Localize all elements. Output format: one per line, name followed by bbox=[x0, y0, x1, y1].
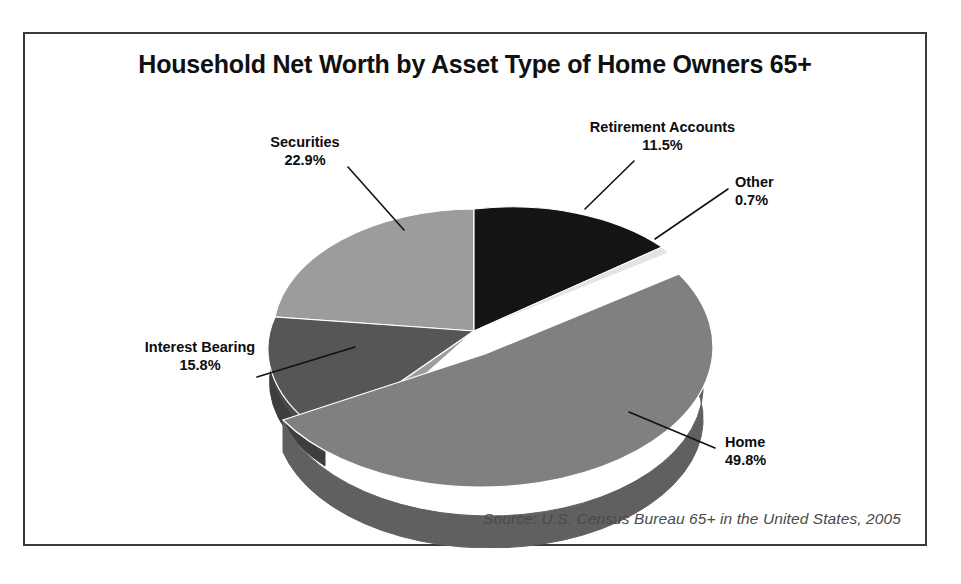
callout-interest-bearing-value: 15.8% bbox=[105, 357, 295, 375]
pie-chart-graphic bbox=[25, 34, 929, 548]
callout-retirement-accounts-name: Retirement Accounts bbox=[590, 119, 735, 135]
callout-home-name: Home bbox=[725, 434, 765, 450]
callout-home-value: 49.8% bbox=[725, 452, 825, 470]
callout-retirement-accounts-value: 11.5% bbox=[555, 137, 770, 155]
source-note: Source: U.S. Census Bureau 65+ in the Un… bbox=[483, 510, 901, 528]
leader-line-other bbox=[655, 189, 728, 239]
callout-securities-name: Securities bbox=[270, 134, 339, 150]
callout-home: Home 49.8% bbox=[725, 434, 825, 469]
callout-other-name: Other bbox=[735, 174, 774, 190]
callout-securities-value: 22.9% bbox=[230, 152, 380, 170]
chart-frame: Household Net Worth by Asset Type of Hom… bbox=[23, 32, 927, 546]
leader-line-retirement bbox=[585, 161, 634, 209]
pie-slice-securities bbox=[275, 209, 474, 331]
callout-other-value: 0.7% bbox=[735, 192, 835, 210]
callout-securities: Securities 22.9% bbox=[230, 134, 380, 169]
callout-interest-bearing: Interest Bearing 15.8% bbox=[105, 339, 295, 374]
callout-interest-bearing-name: Interest Bearing bbox=[145, 339, 255, 355]
callout-retirement-accounts: Retirement Accounts 11.5% bbox=[555, 119, 770, 154]
pie-chart-stage: Securities 22.9% Interest Bearing 15.8% … bbox=[25, 34, 929, 548]
leader-line-securities bbox=[348, 167, 404, 230]
callout-other: Other 0.7% bbox=[735, 174, 835, 209]
pie-slices bbox=[268, 207, 713, 487]
